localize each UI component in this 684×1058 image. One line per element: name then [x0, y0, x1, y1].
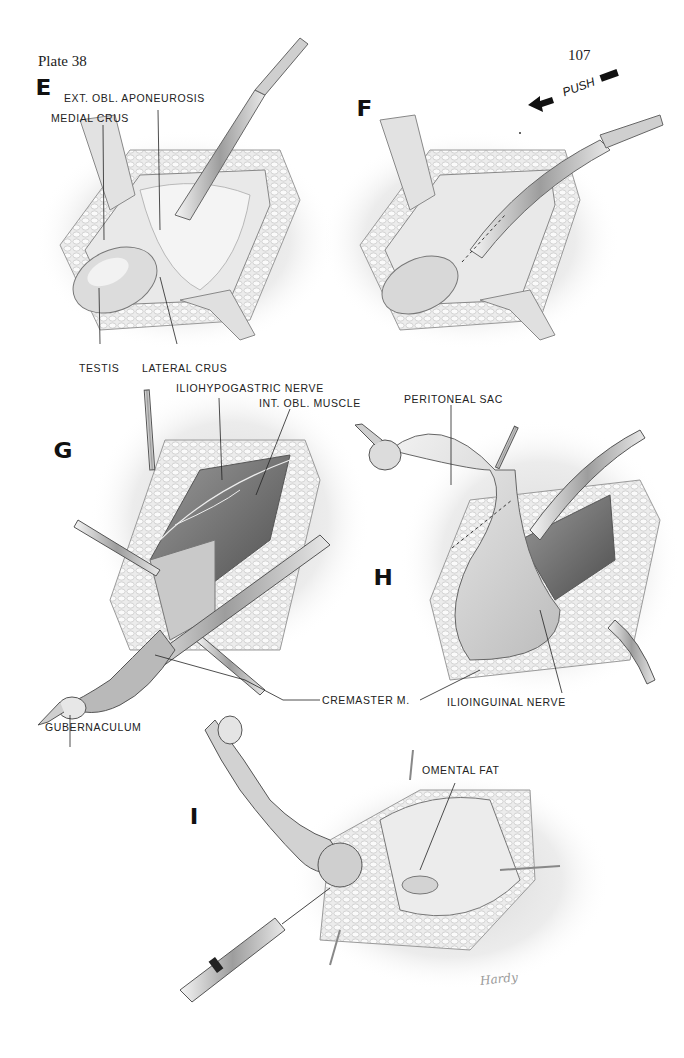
surgical-illustration-plate [0, 0, 684, 1058]
label-ilioinguinal-nerve: ILIOINGUINAL NERVE [447, 696, 566, 708]
panel-g-illustration [38, 380, 370, 725]
label-lateral-crus: LATERAL CRUS [142, 362, 227, 374]
label-gubernaculum: GUBERNACULUM [45, 721, 141, 733]
panel-letter-e: E [36, 75, 52, 100]
label-iliohypogastric-nerve: ILIOHYPOGASTRIC NERVE [176, 382, 324, 394]
label-peritoneal-sac: PERITONEAL SAC [404, 393, 503, 405]
plate-title: Plate 38 [38, 53, 87, 70]
label-testis: TESTIS [79, 362, 119, 374]
label-int-obl-muscle: INT. OBL. MUSCLE [259, 397, 361, 409]
panel-letter-g: G [54, 438, 73, 463]
panel-h-illustration [355, 420, 680, 700]
panel-letter-i: I [190, 804, 199, 829]
panel-letter-h: H [374, 565, 393, 590]
panel-letter-f: F [357, 96, 373, 121]
label-omental-fat: OMENTAL FAT [422, 764, 500, 776]
label-cremaster-m: CREMASTER M. [322, 694, 410, 706]
page-number: 107 [568, 47, 591, 64]
panel-i-illustration [180, 716, 610, 1002]
label-ext-obl-aponeurosis: EXT. OBL. APONEUROSIS [64, 92, 205, 104]
label-medial-crus: MEDIAL CRUS [51, 112, 129, 124]
panel-e-illustration [35, 38, 335, 350]
